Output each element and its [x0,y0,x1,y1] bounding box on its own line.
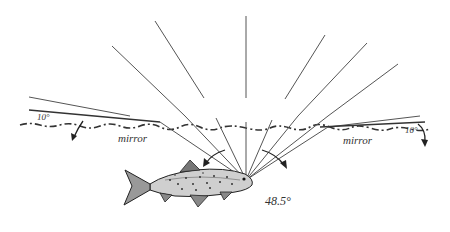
window-angle-label: 48.5° [265,194,291,209]
diagram-drawing [0,0,450,232]
right-arrowhead [421,139,428,147]
mirror-label-right: mirror [343,134,372,146]
mirror-label-left: mirror [118,132,147,144]
rays-above-water [29,16,420,127]
left-10-degree-arrow [74,121,83,137]
left-arrowhead [71,133,77,141]
snells-window-diagram: 10° mirror mirror 10° 48.5° [0,0,450,232]
grazing-rays [29,110,425,127]
angle-label-left: 10° [37,112,50,122]
angle-label-right: 10° [405,125,418,135]
